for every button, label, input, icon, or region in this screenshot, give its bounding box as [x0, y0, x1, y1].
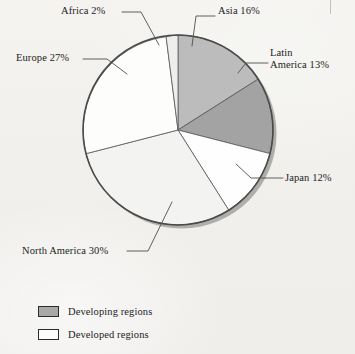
legend-label-developing: Developing regions	[68, 306, 152, 317]
slice-label-north-america: North America 30%	[22, 245, 108, 257]
chart-legend: Developing regions Developed regions	[38, 300, 278, 346]
legend-swatch-developing	[38, 306, 59, 317]
slice-label-latin-america-line2: America 13%	[270, 59, 354, 71]
legend-label-developed: Developed regions	[68, 329, 149, 340]
figure-page: Africa 2% Asia 16% Latin America 13% Eur…	[0, 0, 355, 354]
slice-label-japan: Japan 12%	[285, 172, 332, 184]
legend-swatch-developed	[38, 329, 59, 340]
slice-label-asia: Asia 16%	[218, 5, 260, 17]
legend-item-developed[interactable]: Developed regions	[38, 323, 278, 346]
slice-label-latin-america: Latin America 13%	[270, 47, 354, 71]
slice-label-latin-america-line1: Latin	[270, 47, 354, 59]
slice-label-africa: Africa 2%	[61, 5, 105, 17]
slice-label-europe: Europe 27%	[16, 52, 69, 64]
legend-item-developing[interactable]: Developing regions	[38, 300, 278, 323]
